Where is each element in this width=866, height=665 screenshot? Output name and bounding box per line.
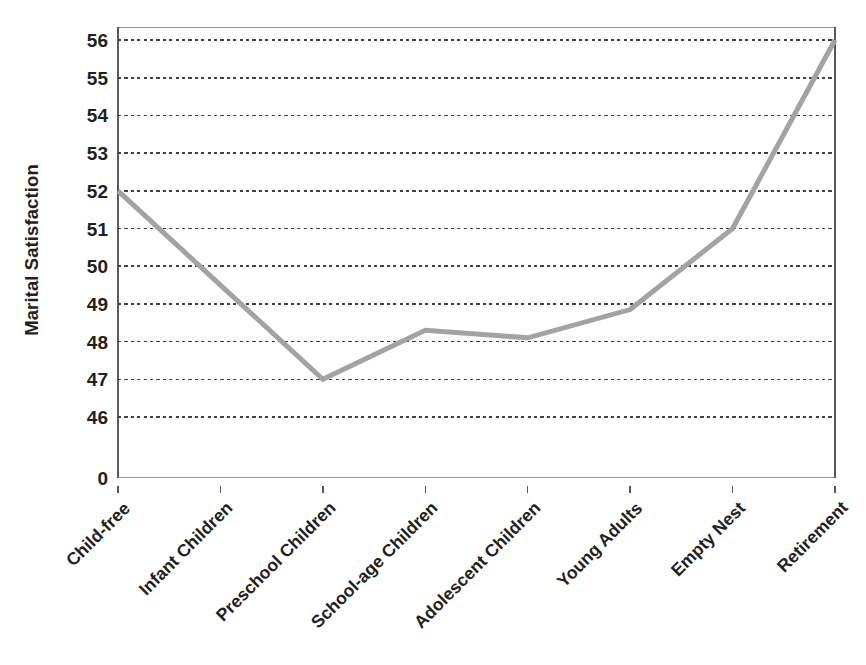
- data-line-marital-satisfaction: [118, 40, 835, 379]
- x-axis-tick-label: Young Adults: [553, 498, 647, 592]
- x-axis-tick-label: Preschool Children: [212, 498, 340, 626]
- y-axis-tick-label: 54: [56, 106, 108, 125]
- x-axis-tick-label: Adolescent Children: [410, 498, 545, 633]
- x-axis-tick-label: Retirement: [773, 498, 852, 577]
- y-axis-tick-label: 56: [56, 31, 108, 50]
- data-series-group: [118, 40, 835, 379]
- x-axis-tick-label: Infant Children: [135, 498, 237, 600]
- x-axis-tick-mark: [527, 486, 529, 493]
- y-axis-tick-label: 52: [56, 181, 108, 200]
- x-axis-tick-mark: [732, 486, 734, 493]
- x-axis-tick-label: Empty Nest: [667, 498, 750, 581]
- plot-svg: [117, 27, 836, 478]
- x-axis-tick-label: School-age Children: [307, 498, 442, 633]
- plot-area: [117, 27, 836, 478]
- y-axis-tick-label: 55: [56, 68, 108, 87]
- x-axis-tick-mark: [117, 486, 119, 493]
- y-axis-tick-label: 0: [56, 468, 108, 487]
- y-axis-tick-label: 46: [56, 408, 108, 427]
- line-chart: Marital Satisfaction 5655545352515049484…: [0, 0, 866, 665]
- y-axis-tick-labels: 56555453525150494847460: [56, 0, 108, 665]
- y-axis-tick-label: 49: [56, 294, 108, 313]
- x-axis-tick-mark: [425, 486, 427, 493]
- y-axis-title-label: Marital Satisfaction: [21, 164, 43, 336]
- x-axis-tick-mark: [220, 486, 222, 493]
- y-axis-tick-label: 53: [56, 144, 108, 163]
- x-axis-tick-mark: [629, 486, 631, 493]
- y-axis-tick-label: 48: [56, 332, 108, 351]
- gridlines: [118, 40, 835, 417]
- x-axis-tick-mark: [834, 486, 836, 493]
- y-axis-tick-label: 47: [56, 370, 108, 389]
- x-axis-tick-mark: [322, 486, 324, 493]
- y-axis-tick-label: 50: [56, 257, 108, 276]
- y-axis-tick-label: 51: [56, 219, 108, 238]
- y-axis-title: Marital Satisfaction: [0, 0, 64, 500]
